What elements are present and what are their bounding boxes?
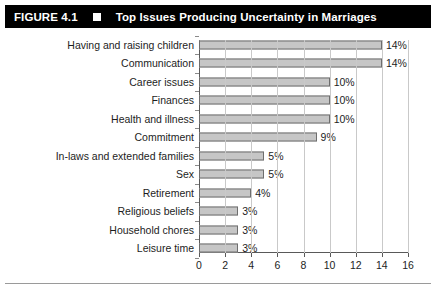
gridline-2 xyxy=(225,40,226,253)
bottom-divider xyxy=(5,283,431,284)
figure-title-bar: FIGURE 4.1 Top Issues Producing Uncertai… xyxy=(5,5,431,28)
category-label: Health and illness xyxy=(111,113,194,125)
bar-value-label: 5% xyxy=(268,168,283,180)
square-marker-icon xyxy=(93,13,101,21)
gridline-10 xyxy=(330,40,331,253)
bar-value-label: 10% xyxy=(334,113,355,125)
x-tick-label-2: 2 xyxy=(222,259,228,271)
bar xyxy=(199,207,238,216)
bar-value-label: 10% xyxy=(334,94,355,106)
bar-value-label: 9% xyxy=(321,131,336,143)
bar-value-label: 4% xyxy=(255,187,270,199)
bar xyxy=(199,244,238,253)
gridline-6 xyxy=(277,40,278,253)
category-label: Communication xyxy=(121,57,194,69)
category-label: Household chores xyxy=(109,224,194,236)
gridline-12 xyxy=(356,40,357,253)
bar xyxy=(199,77,330,86)
bar-value-label: 3% xyxy=(242,205,257,217)
category-label: Religious beliefs xyxy=(118,205,194,217)
y-tick xyxy=(195,165,199,166)
y-tick xyxy=(195,221,199,222)
figure-number-label: FIGURE 4.1 xyxy=(14,11,78,23)
bar-value-label: 10% xyxy=(334,76,355,88)
category-label: Career issues xyxy=(129,76,194,88)
y-tick xyxy=(195,147,199,148)
gridline-16 xyxy=(408,40,409,253)
bar xyxy=(199,151,264,160)
chart-area: Having and raising children14%Communicat… xyxy=(0,32,437,283)
figure-title-label: Top Issues Producing Uncertainty in Marr… xyxy=(116,11,377,23)
y-tick xyxy=(195,36,199,37)
gridline-14 xyxy=(382,40,383,253)
bar xyxy=(199,96,330,105)
category-label: Sex xyxy=(176,168,194,180)
bar xyxy=(199,225,238,234)
category-label: Leisure time xyxy=(137,242,194,254)
x-tick-label-16: 16 xyxy=(402,259,414,271)
plot-region: Having and raising children14%Communicat… xyxy=(199,40,408,253)
bar xyxy=(199,59,382,68)
x-tick-label-6: 6 xyxy=(274,259,280,271)
bar-value-label: 14% xyxy=(386,57,407,69)
x-tick-label-12: 12 xyxy=(350,259,362,271)
bar-value-label: 3% xyxy=(242,224,257,236)
bar xyxy=(199,170,264,179)
y-tick xyxy=(195,239,199,240)
y-tick xyxy=(195,54,199,55)
bar xyxy=(199,40,382,49)
gridline-8 xyxy=(304,40,305,253)
category-label: In-laws and extended families xyxy=(56,150,194,162)
x-axis-tick-labels: 0246810121416 xyxy=(199,253,408,273)
x-tick-label-0: 0 xyxy=(196,259,202,271)
y-tick xyxy=(195,110,199,111)
x-tick-label-4: 4 xyxy=(248,259,254,271)
bar xyxy=(199,114,330,123)
x-tick-label-10: 10 xyxy=(324,259,336,271)
category-label: Retirement xyxy=(143,187,194,199)
y-tick xyxy=(195,91,199,92)
category-label: Having and raising children xyxy=(67,39,194,51)
y-tick xyxy=(195,184,199,185)
gridline-4 xyxy=(251,40,252,253)
y-tick xyxy=(195,202,199,203)
figure-container: FIGURE 4.1 Top Issues Producing Uncertai… xyxy=(0,0,437,291)
bar xyxy=(199,133,317,142)
category-label: Finances xyxy=(151,94,194,106)
y-tick xyxy=(195,128,199,129)
y-tick xyxy=(195,73,199,74)
x-tick-label-8: 8 xyxy=(301,259,307,271)
bar-value-label: 14% xyxy=(386,39,407,51)
x-tick-16 xyxy=(408,253,409,257)
bar-value-label: 5% xyxy=(268,150,283,162)
x-tick-label-14: 14 xyxy=(376,259,388,271)
category-label: Commitment xyxy=(134,131,194,143)
